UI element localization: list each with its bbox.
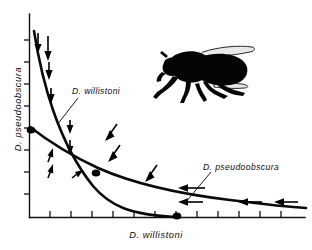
- data-point-willistoni-start: [27, 126, 36, 133]
- x-axis-title: D. willistoni: [96, 230, 216, 240]
- plot-area: [0, 0, 312, 250]
- series-label-willistoni: D. willistoni: [72, 86, 120, 96]
- fly-proboscis-icon: [157, 72, 166, 82]
- series-label-pseudoobscura: D. pseudoobscura: [203, 162, 279, 172]
- y-axis-title: D. pseudoobscura: [13, 44, 23, 174]
- drosophila-fly-silhouette: [153, 46, 254, 103]
- arrow-up-1: [48, 148, 54, 162]
- leader-line-willistoni: [57, 98, 78, 125]
- arrow-left-1: [178, 184, 205, 192]
- fly-leg-5-icon: [195, 83, 207, 102]
- data-point-willistoni-end: [173, 212, 182, 219]
- arrow-up-3: [72, 170, 83, 178]
- arrow-down-3: [45, 62, 52, 80]
- curve-d-willistoni: [34, 31, 177, 217]
- arrow-left-2: [178, 198, 203, 206]
- arrow-diag-1: [105, 124, 117, 141]
- annotation-arrows-group: [34, 33, 298, 206]
- axes-group: [24, 14, 305, 218]
- y-axis-ticks: [24, 40, 30, 194]
- fly-leg-2-icon: [180, 80, 191, 103]
- arrow-diag-3: [145, 165, 157, 182]
- arrow-down-5: [67, 120, 74, 134]
- data-point-crossover: [92, 169, 101, 176]
- drosophila-competition-figure: D. pseudoobscura D. willistoni D. willis…: [0, 0, 312, 250]
- arrow-down-4: [47, 88, 54, 104]
- fly-antenna-icon: [160, 51, 168, 58]
- arrow-diag-2: [108, 145, 120, 162]
- fly-leg-1-icon: [153, 76, 178, 99]
- arrow-up-2: [48, 164, 54, 178]
- arrow-down-2: [44, 36, 51, 61]
